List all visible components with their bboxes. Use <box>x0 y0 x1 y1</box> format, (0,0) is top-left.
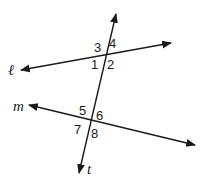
angle-4: 4 <box>109 36 116 51</box>
angle-7: 7 <box>74 122 81 137</box>
angle-5: 5 <box>79 103 86 118</box>
angle-2: 2 <box>107 57 114 72</box>
label-l: ℓ <box>8 62 14 78</box>
label-t: t <box>87 161 92 177</box>
angle-8: 8 <box>91 126 98 141</box>
line-m <box>29 105 195 145</box>
angle-1: 1 <box>91 57 98 72</box>
diagram-canvas: ℓ m t 3 4 1 2 5 6 7 8 <box>0 0 208 190</box>
label-m: m <box>13 98 24 114</box>
angle-6: 6 <box>96 108 103 123</box>
angle-3: 3 <box>94 40 101 55</box>
